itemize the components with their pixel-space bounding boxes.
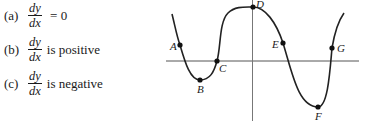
point-label-a: A [169,40,177,52]
point-label-f: F [314,110,322,121]
point-label-e: E [271,38,279,50]
point-e-marker [280,40,285,45]
point-label-c: C [219,62,227,74]
point-g-marker [329,45,334,50]
point-b-marker [197,77,202,82]
point-label-d: D [255,0,264,10]
point-label-g: G [337,42,345,54]
point-a-marker [177,42,182,47]
point-f-marker [315,104,320,109]
function-graph: A B C D E F G [0,0,365,121]
point-d-marker [250,4,255,9]
point-label-b: B [197,83,204,95]
